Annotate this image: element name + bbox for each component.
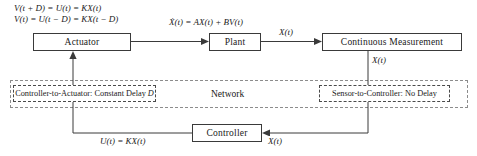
arrowhead-plant-to-measurement (314, 38, 322, 45)
control-system-diagram: V(t + D) = U(t) = KX(t) V(t) = U(t − D) … (0, 0, 477, 156)
block-actuator[interactable]: Actuator (33, 33, 131, 51)
channel-sensor-to-controller-label: Sensor-to-Controller: No Delay (332, 89, 437, 98)
arrowhead-into-actuator (69, 51, 76, 59)
block-plant[interactable]: Plant (209, 33, 261, 51)
block-controller-label: Controller (206, 128, 247, 138)
controller-equation: U(t) = KX(t) (100, 136, 146, 147)
channel-controller-to-actuator-label: Controller-to-Actuator: Constant Delay (15, 89, 146, 98)
channel-controller-to-actuator-param: D (146, 89, 154, 98)
signal-label-measurement-output: X(t) (372, 55, 386, 66)
actuator-equation-line2: V(t) = U(t − D) = KX(t − D) (14, 14, 118, 25)
network-channel-controller-to-actuator: Controller-to-Actuator: Constant DelayD (13, 85, 156, 102)
plant-equation: Ẋ(t) = AX(t) + BV(t) (169, 17, 243, 28)
block-controller[interactable]: Controller (192, 124, 262, 142)
block-measurement-label: Continuous Measurement (341, 37, 443, 47)
actuator-equations: V(t + D) = U(t) = KX(t) V(t) = U(t − D) … (14, 3, 118, 26)
signal-label-controller-input: X(t) (268, 136, 282, 147)
block-plant-label: Plant (225, 37, 246, 47)
network-channel-sensor-to-controller: Sensor-to-Controller: No Delay (319, 85, 450, 102)
block-continuous-measurement[interactable]: Continuous Measurement (322, 33, 462, 51)
arrowhead-actuator-to-plant (201, 38, 209, 45)
block-actuator-label: Actuator (65, 37, 100, 47)
signal-label-plant-output: X(t) (279, 27, 293, 38)
network-label: Network (211, 89, 244, 99)
actuator-equation-line1: V(t + D) = U(t) = KX(t) (14, 3, 118, 14)
